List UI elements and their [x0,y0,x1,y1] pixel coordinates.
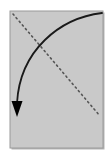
gray-rectangle-panel [10,11,103,148]
figure-canvas [0,0,110,160]
figure-svg [0,0,110,160]
